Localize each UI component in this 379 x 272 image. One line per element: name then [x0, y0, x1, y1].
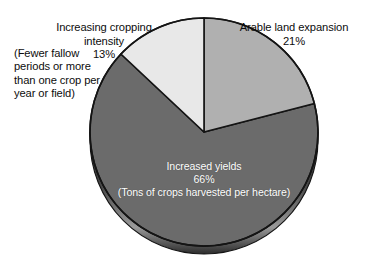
label-cropping-title: Increasing cropping intensity [56, 21, 152, 46]
label-fallow-note: (Fewer fallow periods or more than one c… [14, 47, 124, 101]
label-yields-percent: 66% [84, 173, 324, 186]
label-arable-land-expansion: Arable land expansion 21% [218, 8, 370, 62]
label-arable-percent: 21% [218, 35, 370, 48]
label-yields-title: Increased yields [84, 160, 324, 173]
label-arable-title: Arable land expansion [240, 21, 349, 33]
pie-chart-figure: Increasing cropping intensity 13% (Fewer… [0, 0, 379, 272]
label-increased-yields: Increased yields 66% (Tons of crops harv… [84, 160, 324, 200]
label-yields-note: (Tons of crops harvested per hectare) [84, 186, 324, 199]
